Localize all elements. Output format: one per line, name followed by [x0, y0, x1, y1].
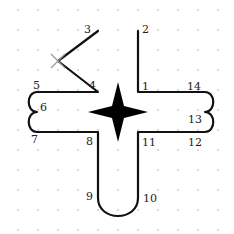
- grid-dot: [157, 209, 159, 211]
- grid-dot: [37, 169, 39, 171]
- grid-dot: [77, 169, 79, 171]
- grid-dot: [77, 9, 79, 11]
- grid-dot: [177, 109, 179, 111]
- grid-dot: [177, 89, 179, 91]
- grid-dot: [197, 9, 199, 11]
- grid-dot: [217, 9, 219, 11]
- grid-dot: [117, 9, 119, 11]
- grid-dot: [57, 209, 59, 211]
- grid-dot: [117, 169, 119, 171]
- grid-dot: [177, 69, 179, 71]
- grid-dot: [17, 209, 19, 211]
- grid-dot: [77, 29, 79, 31]
- grid-dot: [157, 49, 159, 51]
- grid-dot: [77, 49, 79, 51]
- grid-dot: [177, 149, 179, 151]
- grid-dot: [57, 189, 59, 191]
- grid-dot: [37, 69, 39, 71]
- point-label-5: 5: [33, 79, 40, 92]
- grid-dot: [97, 229, 99, 231]
- grid-dot: [17, 149, 19, 151]
- point-label-1: 1: [142, 80, 149, 93]
- grid-dot: [17, 189, 19, 191]
- grid-dot: [177, 169, 179, 171]
- grid-dot: [157, 169, 159, 171]
- grid-dot: [197, 109, 199, 111]
- grid-dot: [157, 29, 159, 31]
- grid-dot: [37, 229, 39, 231]
- grid-dot: [197, 129, 199, 131]
- grid-dot: [217, 169, 219, 171]
- grid-dot: [157, 109, 159, 111]
- grid-dot: [57, 229, 59, 231]
- grid-dot: [57, 89, 59, 91]
- grid-dot: [117, 49, 119, 51]
- grid-dot: [177, 9, 179, 11]
- grid-dot: [177, 29, 179, 31]
- grid-dot: [37, 9, 39, 11]
- diagram-canvas: 1234567891011121314: [0, 0, 234, 234]
- grid-dot: [37, 129, 39, 131]
- point-label-11: 11: [142, 136, 156, 149]
- point-label-8: 8: [86, 135, 93, 148]
- grid-dot: [17, 89, 19, 91]
- grid-dot: [117, 29, 119, 31]
- grid-dot: [17, 49, 19, 51]
- grid-dot: [197, 149, 199, 151]
- grid-dot: [77, 69, 79, 71]
- grid-dot: [217, 109, 219, 111]
- grid-dot: [157, 229, 159, 231]
- grid-dot: [17, 29, 19, 31]
- grid-dot: [17, 229, 19, 231]
- grid-dot: [97, 209, 99, 211]
- point-label-4: 4: [89, 79, 96, 92]
- grid-dot: [17, 9, 19, 11]
- grid-dot: [37, 49, 39, 51]
- grid-dot: [217, 209, 219, 211]
- point-label-12: 12: [188, 136, 202, 149]
- grid-dot: [217, 29, 219, 31]
- grid-dot: [217, 49, 219, 51]
- grid-dot: [137, 209, 139, 211]
- cross-mark-icon: [51, 54, 65, 68]
- grid-dot: [77, 109, 79, 111]
- grid-dot: [197, 49, 199, 51]
- grid-dot: [117, 69, 119, 71]
- grid-dot: [57, 9, 59, 11]
- grid-dot: [217, 149, 219, 151]
- grid-dot: [57, 149, 59, 151]
- grid-dot: [77, 209, 79, 211]
- grid-dot: [197, 29, 199, 31]
- grid-dot: [37, 109, 39, 111]
- grid-dot: [137, 129, 139, 131]
- grid-dot: [157, 9, 159, 11]
- grid-dot: [37, 209, 39, 211]
- grid-dot: [97, 49, 99, 51]
- grid-dot: [57, 29, 59, 31]
- grid-dot: [77, 129, 79, 131]
- grid-dot: [17, 169, 19, 171]
- grid-dot: [217, 189, 219, 191]
- grid-dot: [177, 209, 179, 211]
- grid-dot: [57, 69, 59, 71]
- grid-dot: [177, 229, 179, 231]
- grid-dot: [137, 229, 139, 231]
- grid-dot: [217, 129, 219, 131]
- grid-dot: [117, 229, 119, 231]
- grid-dot: [77, 149, 79, 151]
- point-label-9: 9: [86, 190, 93, 203]
- grid-dot: [177, 49, 179, 51]
- grid-dot: [57, 109, 59, 111]
- grid-dot: [17, 109, 19, 111]
- grid-dot: [157, 89, 159, 91]
- grid-dot: [157, 69, 159, 71]
- grid-dot: [177, 189, 179, 191]
- grid-dot: [137, 9, 139, 11]
- point-label-6: 6: [40, 101, 47, 114]
- grid-dot: [97, 9, 99, 11]
- grid-dot: [117, 189, 119, 191]
- grid-dot: [37, 29, 39, 31]
- grid-dot: [157, 189, 159, 191]
- grid-dot: [57, 169, 59, 171]
- grid-dot: [217, 89, 219, 91]
